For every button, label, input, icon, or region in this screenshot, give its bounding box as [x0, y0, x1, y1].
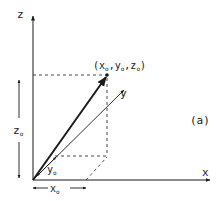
- y-axis-label: y: [120, 87, 127, 100]
- vector-diagram: z x y (xo,yo,zo) (a) zo yo xo: [0, 0, 221, 201]
- point-label: (xo,yo,zo): [93, 60, 146, 72]
- position-vector: [33, 77, 106, 180]
- z0-label: zo: [13, 124, 24, 137]
- panel-label: (a): [190, 114, 210, 127]
- y0-label: yo: [47, 164, 57, 176]
- point-dot: [105, 73, 109, 77]
- x-axis-label: x: [202, 166, 209, 179]
- x0-label: xo: [50, 183, 60, 195]
- z-axis-label: z: [17, 8, 24, 21]
- x0-dashed-diagonal: [86, 157, 107, 180]
